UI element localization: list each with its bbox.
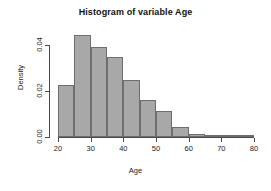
histogram-bar bbox=[107, 57, 123, 137]
histogram-bar bbox=[58, 85, 74, 137]
x-axis-tick-label: 80 bbox=[244, 144, 264, 153]
y-axis-title: Density bbox=[16, 56, 25, 100]
x-axis-title: Age bbox=[0, 166, 271, 175]
y-axis-tick-label: 0.00 bbox=[35, 125, 44, 149]
y-axis-tick bbox=[45, 45, 49, 46]
x-axis-tick bbox=[156, 138, 157, 142]
x-axis-tick bbox=[123, 138, 124, 142]
x-axis-tick-label: 30 bbox=[81, 144, 101, 153]
histogram-bar bbox=[172, 127, 188, 137]
histogram-bar bbox=[91, 47, 107, 137]
y-axis-tick-label: 0.04 bbox=[35, 33, 44, 57]
x-axis-tick-label: 50 bbox=[146, 144, 166, 153]
y-axis-line bbox=[49, 45, 50, 138]
x-axis-tick-label: 70 bbox=[211, 144, 231, 153]
histogram-bar bbox=[123, 80, 139, 137]
y-axis-tick bbox=[45, 91, 49, 92]
x-axis-tick-label: 40 bbox=[113, 144, 133, 153]
x-axis-tick-label: 20 bbox=[48, 144, 68, 153]
plot-area bbox=[58, 45, 254, 137]
x-axis-tick bbox=[221, 138, 222, 142]
x-axis-tick-label: 60 bbox=[179, 144, 199, 153]
x-axis-tick bbox=[189, 138, 190, 142]
x-axis-tick bbox=[91, 138, 92, 142]
chart-title: Histogram of variable Age bbox=[0, 7, 271, 17]
histogram-bar bbox=[74, 35, 90, 137]
histogram-bar bbox=[156, 111, 172, 137]
histogram-plot: Histogram of variable Age Density Age 20… bbox=[0, 0, 271, 191]
x-axis-tick bbox=[58, 138, 59, 142]
y-axis-tick bbox=[45, 137, 49, 138]
y-axis-tick-label: 0.02 bbox=[35, 79, 44, 103]
histogram-bar bbox=[140, 100, 156, 137]
x-axis-tick bbox=[254, 138, 255, 142]
